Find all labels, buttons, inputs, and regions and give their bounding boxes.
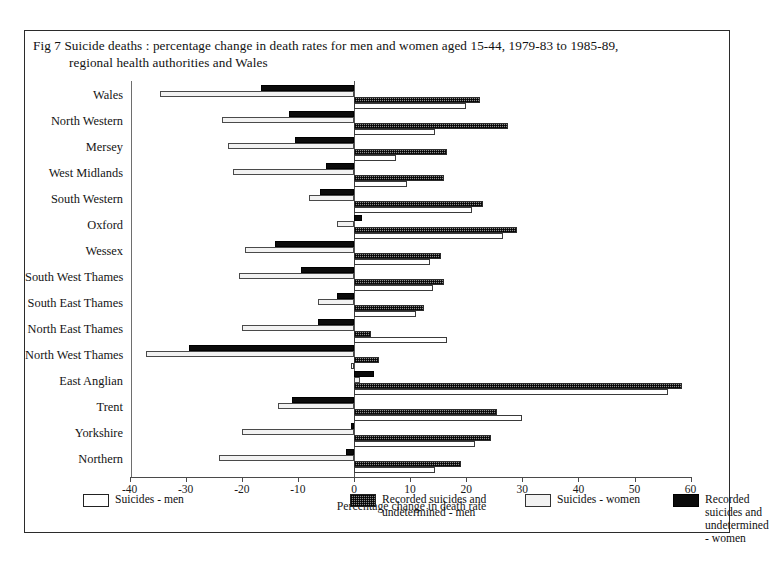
legend-item-s-women[interactable]: Suicides - women [525,493,640,507]
y-axis-category-label: Wales [25,88,123,103]
bar-r-women [354,371,374,377]
bar-s-men [354,467,435,473]
bar-r-women [318,319,354,325]
bar-s-women [354,377,360,383]
figure-title-line2: regional health authorities and Wales [33,54,719,71]
legend-item-r-men[interactable]: Recorded suicides and undetermined - men [350,493,486,519]
chart-row: Northern [25,447,731,473]
y-axis-category-label: Northern [25,452,123,467]
bar-r-women [337,293,354,299]
bar-r-men [354,383,682,389]
chart-plot-area: -40-30-20-100102030405060 WalesNorth Wes… [25,79,731,484]
chart-row: North West Thames [25,343,731,369]
chart-legend: Suicides - menRecorded suicides and unde… [25,493,731,531]
bar-s-women [242,325,354,331]
bar-s-women [146,351,354,357]
bar-s-women [245,247,354,253]
bar-s-women [239,273,354,279]
chart-row: Wales [25,83,731,109]
bar-r-men [354,253,441,259]
x-tick-mark [691,477,692,482]
chart-row: Mersey [25,135,731,161]
bar-r-men [354,435,491,441]
legend-label: Suicides - men [115,493,184,506]
x-tick-mark [466,477,467,482]
bar-s-women [233,169,354,175]
bar-r-women [289,111,354,117]
chart-row: South East Thames [25,291,731,317]
bar-s-women [222,117,354,123]
bar-s-women [228,143,354,149]
bar-s-women [337,221,354,227]
y-axis-category-label: Mersey [25,140,123,155]
figure-title-line1: Suicide deaths : percentage change in de… [64,38,618,53]
legend-swatch-r-men [350,494,376,507]
bar-r-women [301,267,354,273]
legend-label: Recorded suicides and undetermined - men [382,493,486,519]
x-tick-mark [298,477,299,482]
legend-item-s-men[interactable]: Suicides - men [83,493,184,507]
bar-r-men [354,149,447,155]
chart-row: Yorkshire [25,421,731,447]
bar-r-men [354,409,497,415]
bar-r-men [354,175,444,181]
y-axis-category-label: North West Thames [25,348,123,363]
y-axis-category-label: North East Thames [25,322,123,337]
bar-r-women [295,137,354,143]
x-tick-mark [635,477,636,482]
y-axis-category-label: Oxford [25,218,123,233]
x-tick-mark [242,477,243,482]
bar-r-men [354,123,508,129]
y-axis-category-label: South West Thames [25,270,123,285]
bar-r-men [354,97,480,103]
chart-row: South West Thames [25,265,731,291]
bar-s-women [242,429,354,435]
bar-r-women [292,397,354,403]
y-axis-category-label: South East Thames [25,296,123,311]
legend-swatch-s-women [525,494,551,507]
bar-r-women [354,215,362,221]
bar-r-women [261,85,354,91]
bar-r-men [354,201,483,207]
y-axis-category-label: West Midlands [25,166,123,181]
chart-row: North East Thames [25,317,731,343]
x-tick-mark [354,477,355,482]
chart-row: North Western [25,109,731,135]
y-axis-category-label: East Anglian [25,374,123,389]
bar-r-men [354,279,444,285]
x-tick-mark [578,477,579,482]
y-axis-category-label: Yorkshire [25,426,123,441]
bar-r-women [351,423,354,429]
chart-row: West Midlands [25,161,731,187]
chart-row: Trent [25,395,731,421]
y-axis-category-label: Trent [25,400,123,415]
legend-swatch-r-women [673,494,699,507]
x-tick-mark [522,477,523,482]
bar-r-men [354,305,424,311]
legend-item-r-women[interactable]: Recorded suicides and undetermined - wom… [673,493,769,545]
legend-label: Recorded suicides and undetermined - wom… [705,493,769,545]
bar-r-men [354,331,371,337]
x-tick-mark [410,477,411,482]
figure-number: Fig 7 [33,38,61,53]
y-axis-category-label: Wessex [25,244,123,259]
figure-caption: Fig 7 Suicide deaths : percentage change… [33,37,719,71]
bar-r-women [326,163,354,169]
bar-r-women [189,345,354,351]
bar-r-women [320,189,354,195]
bar-s-women [318,299,354,305]
bar-r-women [275,241,354,247]
chart-row: East Anglian [25,369,731,395]
x-axis-line [131,477,692,478]
bar-s-women [278,403,354,409]
x-tick-mark [130,477,131,482]
y-axis-category-label: North Western [25,114,123,129]
y-axis-category-label: South Western [25,192,123,207]
legend-label: Suicides - women [557,493,640,506]
bar-s-women [309,195,354,201]
x-tick-mark [186,477,187,482]
figure-frame: Fig 7 Suicide deaths : percentage change… [24,30,730,533]
bar-r-men [354,461,461,467]
bar-s-women [219,455,354,461]
chart-row: Wessex [25,239,731,265]
